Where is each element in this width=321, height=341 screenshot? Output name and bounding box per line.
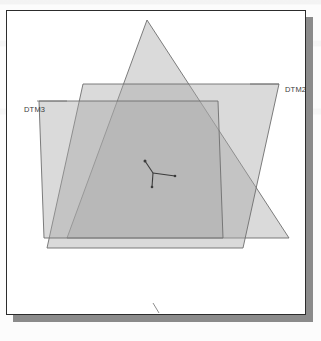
origin-z-axis-tip [151, 186, 154, 189]
figure-root: DTM2 DTM3 DTM1 [0, 0, 321, 341]
dtm-planes-plot [7, 11, 305, 314]
leader-line-dtm1 [153, 303, 159, 313]
origin-y-axis-tip [144, 160, 147, 163]
diagram-frame: DTM2 DTM3 DTM1 [6, 10, 306, 315]
plane-label-dtm2: DTM2 [285, 85, 306, 94]
origin-x-axis-tip [174, 175, 177, 178]
plane-label-dtm3: DTM3 [24, 105, 45, 114]
plane-dtm3[interactable] [39, 101, 223, 238]
